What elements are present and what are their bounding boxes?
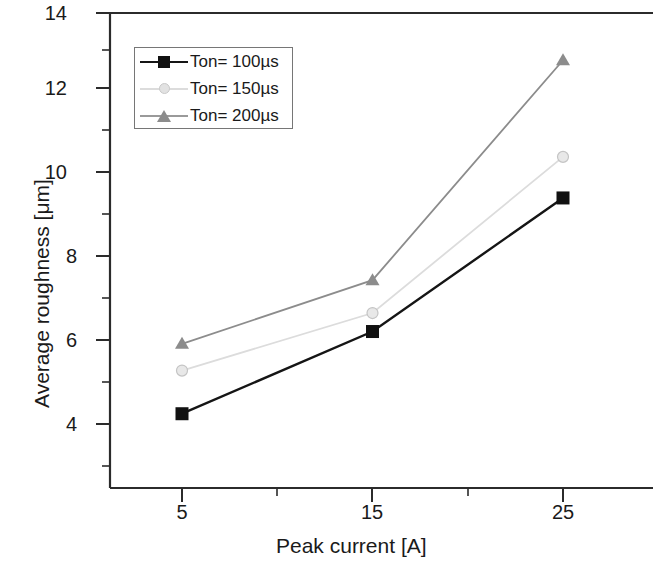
legend-entry-ton-200us: Ton= 200µs [135,102,292,129]
circle-marker-icon [159,83,170,94]
triangle-marker-icon [157,110,171,122]
legend-entry-ton-150us: Ton= 150µs [135,75,292,102]
legend-swatch-ton-200us [138,106,190,126]
y-minor-ticks [102,50,110,466]
chart-figure: Average roughness [μm] Peak current [A] … [0,0,653,566]
legend-swatch-ton-100us [138,52,190,72]
series-ton-150us [177,151,569,376]
legend: Ton= 100µs Ton= 150µs Ton= 200µs [134,47,293,129]
legend-entry-ton-100us: Ton= 100µs [135,48,292,75]
series-ton-100us [176,191,570,420]
y-major-ticks [96,13,110,424]
plot-area [0,0,653,566]
legend-swatch-ton-150us [138,79,190,99]
legend-label-ton-100us: Ton= 100µs [190,53,279,70]
square-marker-icon [158,56,170,68]
legend-label-ton-200us: Ton= 200µs [190,107,279,124]
legend-label-ton-150us: Ton= 150µs [190,80,279,97]
x-major-ticks [182,488,563,502]
